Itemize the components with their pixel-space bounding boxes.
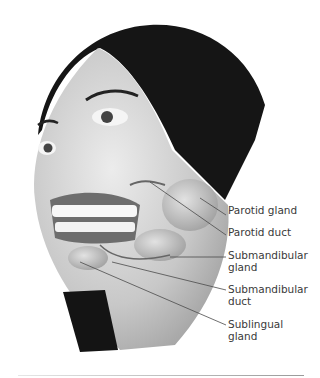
label-parotid-duct: Parotid duct [228, 226, 291, 238]
label-sublingual-gland: Sublingual gland [228, 318, 283, 342]
mouth [50, 193, 140, 244]
label-submandibular-duct: Submandibular duct [228, 283, 308, 307]
bottom-divider [18, 375, 304, 376]
upper-teeth [52, 205, 137, 217]
submandibular-gland [134, 229, 186, 261]
label-submandibular-gland: Submandibular gland [228, 249, 308, 273]
label-parotid-gland: Parotid gland [228, 204, 297, 216]
salivary-glands-figure: Parotid gland Parotid duct Submandibular… [0, 0, 320, 378]
lower-teeth [55, 222, 135, 232]
sublingual-gland [68, 246, 108, 270]
